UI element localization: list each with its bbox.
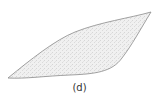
lens-region: [8, 12, 151, 78]
figure-caption: (d): [0, 82, 159, 93]
